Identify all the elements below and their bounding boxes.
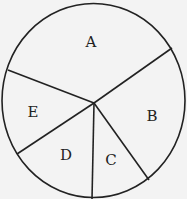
sector-label-a: A [85, 33, 97, 51]
sector-label-d: D [60, 146, 72, 164]
boundary-a-b [94, 48, 172, 103]
sector-label-c: C [105, 151, 116, 169]
boundary-e-a [8, 70, 94, 103]
pie-diagram-svg: A B C D E [0, 0, 187, 199]
boundary-b-c [94, 103, 149, 180]
sector-label-e: E [28, 103, 39, 121]
pie-diagram: A B C D E [0, 0, 187, 199]
boundary-c-d [92, 103, 94, 199]
sector-label-b: B [146, 107, 157, 125]
